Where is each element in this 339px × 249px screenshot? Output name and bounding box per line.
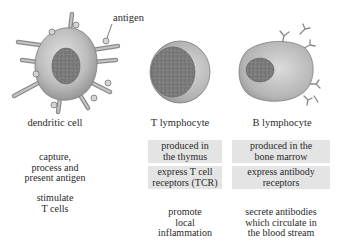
t-lymphocyte-label: T lymphocyte	[140, 117, 220, 128]
antigen-label: antigen	[113, 12, 144, 23]
b-receptor: express antibody receptors	[232, 167, 330, 188]
t-role: promote local inflammation	[148, 207, 222, 239]
dendritic-cell-icon	[14, 14, 118, 112]
b-lymphocyte-label: B lymphocyte	[232, 117, 332, 128]
t-lymphocyte-icon	[150, 41, 210, 103]
t-origin: produced in the thymus	[148, 141, 222, 162]
b-origin: produced in the bone marrow	[232, 141, 330, 162]
b-lymphocyte-icon	[239, 24, 320, 105]
t-receptor: express T cell receptors (TCR)	[148, 167, 222, 188]
dendritic-role: stimulate T cells	[5, 193, 105, 214]
dendritic-function: capture, process and present antigen	[5, 152, 105, 184]
dendritic-cell-label: dendritic cell	[5, 117, 105, 128]
b-role: secrete antibodies which circulate in th…	[232, 207, 330, 239]
